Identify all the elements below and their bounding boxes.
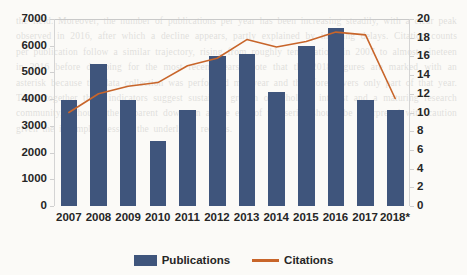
legend-item-publications[interactable]: Publications bbox=[134, 254, 230, 266]
right-axis-tick bbox=[410, 113, 414, 114]
right-axis-tick-label: 0 bbox=[417, 200, 423, 212]
x-axis-label-2009: 2009 bbox=[113, 211, 143, 223]
chart-legend: PublicationsCitations bbox=[0, 254, 467, 266]
left-axis-tick-label: 1000 bbox=[21, 173, 47, 185]
left-axis-tick-label: 7000 bbox=[21, 13, 47, 25]
right-axis-tick-label: 8 bbox=[417, 125, 423, 137]
right-axis-tick bbox=[410, 150, 414, 151]
x-axis-label-2012: 2012 bbox=[202, 211, 232, 223]
x-axis-label-2016: 2016 bbox=[321, 211, 351, 223]
right-axis-tick bbox=[410, 75, 414, 76]
citations-polyline bbox=[69, 32, 395, 112]
right-axis-tick bbox=[410, 169, 414, 170]
right-axis-tick bbox=[410, 206, 414, 207]
x-axis-label-2010: 2010 bbox=[143, 211, 173, 223]
right-axis-tick bbox=[410, 38, 414, 39]
right-axis-tick-label: 10 bbox=[417, 107, 430, 119]
plot-area: 01000200030004000500060007000 0246810121… bbox=[54, 19, 410, 206]
legend-label: Citations bbox=[284, 254, 333, 266]
left-axis-tick bbox=[50, 206, 54, 207]
right-axis-tick-label: 14 bbox=[417, 69, 430, 81]
category-axis-labels: 2007200820092010201120122013201420152016… bbox=[54, 211, 410, 223]
x-axis-label-2013: 2013 bbox=[232, 211, 262, 223]
x-axis-label-2014: 2014 bbox=[261, 211, 291, 223]
left-axis-tick-label: 6000 bbox=[21, 40, 47, 52]
right-axis-tick-label: 18 bbox=[417, 32, 430, 44]
x-axis-label-2007: 2007 bbox=[54, 211, 84, 223]
legend-line-swatch-icon bbox=[252, 259, 279, 262]
legend-item-citations[interactable]: Citations bbox=[252, 254, 333, 266]
right-axis-tick bbox=[410, 94, 414, 95]
right-axis-tick-label: 6 bbox=[417, 144, 423, 156]
right-axis-tick-label: 20 bbox=[417, 13, 430, 25]
x-axis-label-2018: 2018* bbox=[380, 211, 410, 223]
left-axis-tick-label: 3000 bbox=[21, 120, 47, 132]
right-axis-tick bbox=[410, 19, 414, 20]
right-axis-tick bbox=[410, 131, 414, 132]
right-axis-tick-label: 12 bbox=[417, 88, 430, 100]
line-series-citations bbox=[54, 19, 410, 206]
right-axis-tick-label: 4 bbox=[417, 163, 423, 175]
right-axis-tick bbox=[410, 56, 414, 57]
x-axis-label-2015: 2015 bbox=[291, 211, 321, 223]
x-axis-label-2017: 2017 bbox=[350, 211, 380, 223]
x-axis-label-2008: 2008 bbox=[84, 211, 114, 223]
right-axis-tick-label: 2 bbox=[417, 181, 423, 193]
left-axis-tick-label: 2000 bbox=[21, 147, 47, 159]
left-axis-tick-label: 4000 bbox=[21, 93, 47, 105]
right-axis-tick bbox=[410, 187, 414, 188]
legend-bar-swatch-icon bbox=[134, 255, 157, 266]
legend-label: Publications bbox=[162, 254, 230, 266]
publications-citations-chart: 01000200030004000500060007000 0246810121… bbox=[0, 0, 467, 275]
left-axis-tick-label: 0 bbox=[41, 200, 47, 212]
right-axis-tick-label: 16 bbox=[417, 50, 430, 62]
x-axis-label-2011: 2011 bbox=[173, 211, 203, 223]
left-axis-tick-label: 5000 bbox=[21, 66, 47, 78]
